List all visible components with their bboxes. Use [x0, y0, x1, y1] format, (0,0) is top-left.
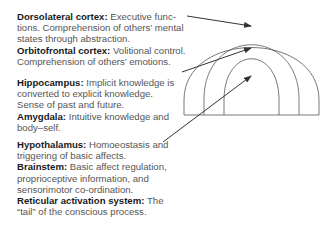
term-hypothalamus: Hypothalamus:	[17, 139, 86, 150]
term-hippocampus: Hippocampus:	[17, 77, 84, 88]
inner-arch	[224, 59, 279, 115]
arrow-outer	[187, 16, 251, 26]
term-amygdala: Amygdala:	[17, 111, 66, 122]
term-brainstem: Brainstem:	[17, 161, 67, 172]
middle-arch	[204, 45, 299, 115]
annotation-group-brainstem: Hypothalamus: Homoeostasis and triggerin…	[17, 139, 182, 217]
term-orbitofrontal: Orbitofrontal cortex:	[17, 45, 110, 56]
annotation-group-cortex: Dorsolateral cortex: Executive func-tion…	[17, 11, 192, 67]
annotation-group-limbic: Hippocampus: Implicit knowledge is conve…	[17, 77, 179, 133]
term-reticular: Reticular activation system:	[17, 195, 144, 206]
arrow-middle	[182, 48, 251, 72]
term-dorsolateral: Dorsolateral cortex:	[17, 11, 108, 22]
